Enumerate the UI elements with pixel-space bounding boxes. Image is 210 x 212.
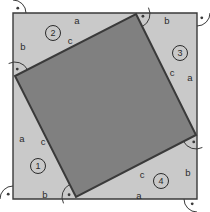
label-a-top: a (74, 15, 80, 26)
right-angle-inner-top-dot (142, 15, 145, 18)
region-marker-1-text: 1 (35, 161, 40, 171)
right-angle-outer-top-right-dot (200, 16, 203, 19)
label-b-left-upper: b (20, 41, 25, 52)
right-angle-outer-top-left-dot (16, 7, 19, 10)
label-a-bottom: a (136, 190, 142, 201)
label-b-bottom-right: b (185, 167, 190, 178)
region-marker-3-text: 3 (177, 48, 182, 58)
pythagorean-diagram: acbbcaacbcba 1234 (0, 0, 210, 212)
right-angle-outer-bottom-right-dot (191, 202, 194, 205)
right-angle-inner-right-dot (192, 141, 195, 144)
label-c-left: c (41, 136, 46, 147)
right-angle-outer-bottom-left-dot (7, 193, 10, 196)
label-a-left-lower: a (19, 133, 25, 144)
label-a-right: a (187, 72, 193, 83)
label-c-right: c (170, 67, 175, 78)
right-angle-inner-left-dot (16, 68, 19, 71)
label-c-top-left: c (68, 35, 73, 46)
region-marker-4-text: 4 (158, 176, 163, 186)
label-b-top-right: b (164, 15, 169, 26)
label-c-bottom: c (140, 169, 145, 180)
right-angle-inner-bottom-dot (68, 193, 71, 196)
diagram-canvas: acbbcaacbcba 1234 (0, 0, 210, 212)
label-b-bottom-left: b (42, 189, 47, 200)
region-marker-2-text: 2 (50, 28, 55, 38)
